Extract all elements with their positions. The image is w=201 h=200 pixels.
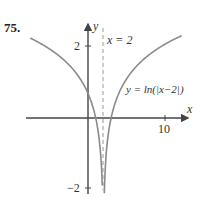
curve-ln-abs: [30, 36, 181, 194]
asymptote-label: x = 2: [106, 33, 132, 47]
x-axis-label: x: [186, 102, 193, 116]
x-tick-label-10: 10: [158, 122, 170, 136]
y-axis-label: y: [92, 19, 99, 33]
function-label: y = ln(|x−2|): [125, 83, 184, 96]
y-tick-label-2: 2: [74, 39, 80, 53]
y-tick-label-neg2: −2: [67, 181, 80, 195]
function-graph: 10 2 −2 x y x = 2 y = ln(|x−2|): [0, 0, 201, 200]
